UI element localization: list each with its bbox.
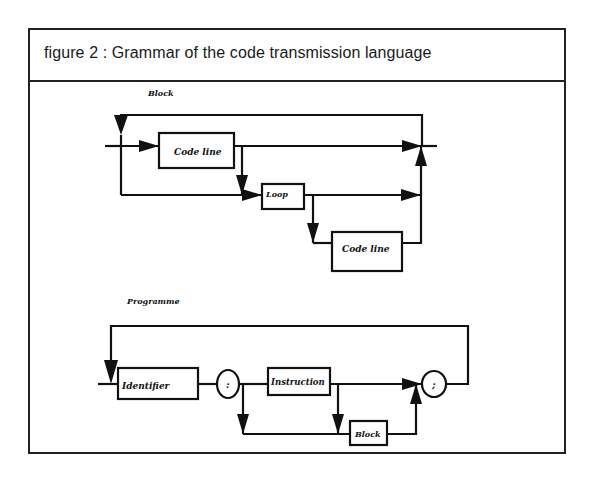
svg-text:Instruction: Instruction	[270, 377, 325, 387]
svg-text:Loop: Loop	[265, 189, 288, 199]
block-diagram: Block Code line Loop C	[105, 88, 437, 271]
svg-text:Block: Block	[354, 429, 381, 439]
loop-node: Loop	[262, 184, 304, 209]
code-line-2-node: Code line	[332, 232, 402, 271]
svg-text::: :	[226, 379, 230, 390]
syntax-diagrams: Block Code line Loop C	[0, 0, 596, 487]
svg-text:;: ;	[431, 379, 436, 390]
code-line-1-node: Code line	[159, 133, 234, 168]
block-node: Block	[350, 421, 387, 445]
programme-diagram: Programme Identifier : Instruction	[98, 296, 468, 445]
svg-text:Code line: Code line	[174, 147, 222, 157]
semicolon-node: ;	[422, 371, 446, 397]
identifier-node: Identifier	[118, 368, 198, 399]
block-heading: Block	[147, 88, 174, 98]
arrow-down-icon	[114, 115, 128, 135]
svg-text:Identifier: Identifier	[121, 381, 171, 391]
svg-text:Code line: Code line	[342, 244, 390, 254]
colon-node: :	[217, 370, 239, 398]
arrow-down-icon	[104, 360, 118, 384]
instruction-node: Instruction	[268, 368, 330, 395]
programme-heading: Programme	[126, 296, 180, 306]
